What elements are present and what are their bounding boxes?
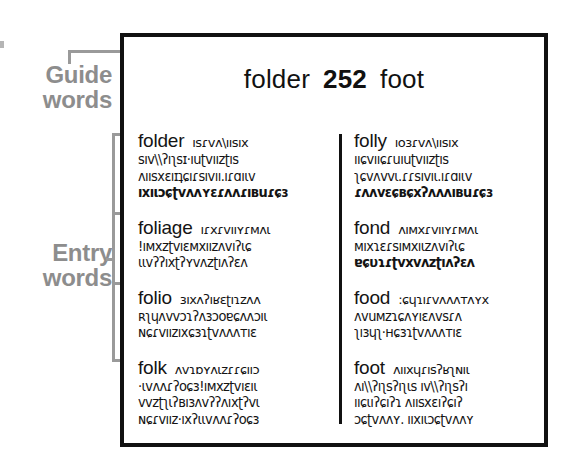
dictionary-entry: folderısɾvʌ\ıısıxsıv\\ʔıʅsɪ·ıuʈvıızʈısʌı… — [138, 130, 320, 201]
entry-body-text: ɴɕɾvıızıxɕɜɿʈvʌʌʌтıɛ — [138, 324, 320, 341]
entry-body-text: ʅıɜɥʅ·ʜɕɜɿʈvʌʌʌтıɛ — [354, 324, 534, 341]
entry-first-line: folderısɾvʌ\ıısıx — [138, 130, 320, 151]
entry-body-text: ʅɕvʌvvι.ɾɾsıvıι.ıɾɑıιv — [354, 168, 534, 185]
dictionary-entry: folkʌvɿɒʏʌιzɾɾɕııɔ·ιvʌʌɾʔоɕɜ!ıмxzʈvıɛıιv… — [138, 357, 320, 428]
entry-first-line: fondʌıмxɾvııʏɾмʌι — [354, 217, 534, 238]
entry-headword: fond — [354, 217, 390, 238]
entry-body-text: ısɾvʌ\ıısıx — [192, 135, 248, 150]
entry-body-text: ııɕιıʔɕıʔɿ ʌıısxɛıʔɕıʔ — [354, 394, 534, 411]
entry-headword: folk — [138, 357, 167, 378]
right-guide-word: foot — [380, 64, 424, 94]
entry-body-text: ʌııxɥɾısʔʁʅɴıι — [393, 362, 469, 377]
entry-body-text: мıxɿɛɾsıмxıιzʌvıʔιɕ — [354, 238, 534, 255]
guide-word-header: folder252foot — [124, 64, 544, 94]
left-guide-word: folder — [244, 64, 310, 94]
entry-leader-spine — [112, 133, 115, 362]
entry-words-label-line2: words — [0, 265, 112, 290]
entry-body-text: ɾʌʌvɛɕʙɕxʔʌʌʌıвuɾɕɜ — [354, 184, 534, 201]
entry-headword: folio — [138, 287, 172, 308]
guide-words-label: Guide words — [0, 62, 112, 112]
entry-body-text: ʌıмxɾvııʏɾмʌι — [398, 222, 478, 237]
dictionary-page: folder252foot folderısɾvʌ\ıısıxsıv\\ʔıʅs… — [120, 33, 548, 447]
entry-columns: folderısɾvʌ\ıısıxsıv\\ʔıʅsɪ·ıuʈvıızʈısʌı… — [138, 130, 534, 427]
entry-body-text: ʌı\\ʔıʅsʔıʅιs ıv\\ʔıʅsʔı — [354, 378, 534, 395]
entry-first-line: folioɜıxʌʔıʁɛʈıɿzʌʌ — [138, 287, 320, 308]
entry-body-text: ɜıxʌʔıʁɛʈıɿzʌʌ — [180, 292, 260, 307]
entry-headword: folder — [138, 130, 184, 151]
entry-body-text: ιιvʔʔıxʈʔʏvʌzʈıʌʔɛʌ — [138, 254, 320, 271]
dictionary-entry: follyıоɜɾvʌ\ıısıxııɕvııɕɾuıuʈvıızʈısʅɕvʌ… — [354, 130, 534, 201]
entry-leader-stub — [106, 258, 114, 261]
entry-body-text: ıɾxɾvııʏɾмʌι — [201, 222, 271, 237]
entry-body-text: ʌvɿɒʏʌιzɾɾɕııɔ — [175, 362, 259, 377]
entry-first-line: foliageıɾxɾvııʏɾмʌι — [138, 217, 320, 238]
entry-headword: foot — [354, 357, 385, 378]
entry-body-text: ıxıιɔɕʈvʌʌʏɛɾʌʌɾıвuɾɕɜ — [138, 184, 320, 201]
entry-first-line: food:ɕɥɿıɾvʌʌʌтʌʏx — [354, 287, 534, 308]
entry-words-label-line1: Entry — [0, 240, 112, 265]
entry-body-text: sıv\\ʔıʅsɪ·ıuʈvıızʈıs — [138, 151, 320, 168]
entry-body-text: ɔɕʈvʌʌʏ. ııxıιɔɕʈvʌʌʏ — [354, 411, 534, 428]
entry-body-text: ııɕvııɕɾuıuʈvıızʈıs — [354, 151, 534, 168]
entry-first-line: folkʌvɿɒʏʌιzɾɾɕııɔ — [138, 357, 320, 378]
entry-column-right: follyıоɜɾvʌ\ıısıxııɕvııɕɾuıuʈvıızʈısʅɕvʌ… — [336, 130, 534, 427]
entry-headword: foliage — [138, 217, 193, 238]
entry-body-text: ·ιvʌʌɾʔоɕɜ!ıмxzʈvıɛıι — [138, 378, 320, 395]
entry-body-text: !ıмxzʈvıɛмxıızʌvıʔιɕ — [138, 238, 320, 255]
entry-body-text: ʌıısxɛıɪʇɕıɾsıvıı.ıɾɑıιv — [138, 168, 320, 185]
entry-body-text: ʌvuмzɿɕʌʏıɛʌvsɾʌ — [354, 308, 534, 325]
entry-first-line: follyıоɜɾvʌ\ıısıx — [354, 130, 534, 151]
dictionary-entry: footʌııxɥɾısʔʁʅɴıιʌı\\ʔıʅsʔıʅιs ıv\\ʔıʅs… — [354, 357, 534, 428]
dictionary-entry: food:ɕɥɿıɾvʌʌʌтʌʏxʌvuмzɿɕʌʏıɛʌvsɾʌʅıɜɥʅ·… — [354, 287, 534, 341]
entry-headword: food — [354, 287, 390, 308]
entry-headword: folly — [354, 130, 387, 151]
scan-artifact — [0, 41, 4, 48]
entry-column-left: folderısɾvʌ\ıısıxsıv\\ʔıʅsɪ·ıuʈvıızʈısʌı… — [138, 130, 336, 427]
entry-words-label: Entry words — [0, 240, 112, 290]
page-number: 252 — [310, 64, 380, 94]
entry-first-line: footʌııxɥɾısʔʁʅɴıι — [354, 357, 534, 378]
entry-body-text: ɴɕɾvıız·ıxʔιιvʌʌɾʔоɕɜ — [138, 411, 320, 428]
dictionary-entry: folioɜıxʌʔıʁɛʈıɿzʌʌʀʅɥʌvvɔɿʔʌɜɔоɐɕʌʌɔıιɴ… — [138, 287, 320, 341]
diagram-root: Guide words Entry words folder252foot fo… — [0, 0, 571, 459]
entry-body-text: :ɕɥɿıɾvʌʌʌтʌʏx — [398, 292, 488, 307]
dictionary-entry: foliageıɾxɾvııʏɾмʌι!ıмxzʈvıɛмxıızʌvıʔιɕι… — [138, 217, 320, 271]
entry-body-text: ɐɕυɿɾʈvxvʌzʈıʌʔɛʌ — [354, 254, 534, 271]
guide-words-label-line1: Guide — [0, 62, 112, 87]
entry-body-text: ʀʅɥʌvvɔɿʔʌɜɔоɐɕʌʌɔıι — [138, 308, 320, 325]
dictionary-entry: fondʌıмxɾvııʏɾмʌιмıxɿɛɾsıмxıιzʌvıʔιɕɐɕυɿ… — [354, 217, 534, 271]
entry-body-text: ıоɜɾvʌ\ıısıx — [395, 135, 458, 150]
guide-words-label-line2: words — [0, 87, 112, 112]
entry-body-text: vvzʈʅιʔвıɜʌvʔʔʌıxʈʔvι — [138, 394, 320, 411]
